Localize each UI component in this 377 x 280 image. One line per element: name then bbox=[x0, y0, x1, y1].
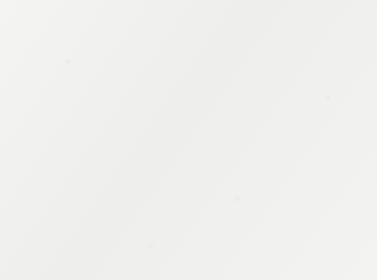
x-axis-category-label: Netherlands bbox=[97, 186, 107, 248]
y-tick-mark bbox=[44, 118, 50, 119]
organ-donor-bar-chart: Percentage of Organ Donors 0102030405060… bbox=[0, 0, 377, 280]
y-tick-mark bbox=[44, 55, 50, 56]
bar-rect bbox=[332, 46, 349, 181]
bar-rect bbox=[250, 24, 267, 181]
bar-value-label: 4 bbox=[62, 163, 68, 173]
bar-rect bbox=[57, 175, 74, 181]
y-tick-mark bbox=[44, 87, 50, 88]
bar-rect bbox=[195, 27, 212, 181]
y-tick-label: 100 bbox=[0, 18, 40, 29]
bar: 86 bbox=[332, 46, 349, 181]
bar: 12 bbox=[140, 162, 157, 181]
x-axis-category-label: United Kingdom bbox=[125, 186, 135, 268]
y-tick-mark bbox=[44, 24, 50, 25]
bar-rect bbox=[112, 154, 129, 181]
bar-rect bbox=[305, 24, 322, 181]
bar: 100 bbox=[305, 24, 322, 181]
bar-rect bbox=[85, 137, 102, 181]
y-tick-label: 40 bbox=[0, 112, 40, 123]
bar: 98 bbox=[195, 27, 212, 181]
bar: 100 bbox=[167, 24, 184, 181]
x-axis-category-label: Germany bbox=[152, 186, 162, 232]
bar-value-label: 86 bbox=[334, 34, 347, 44]
bar-value-label: 100 bbox=[276, 12, 295, 22]
bar-value-label: 100 bbox=[166, 12, 185, 22]
bar-rect bbox=[277, 24, 294, 181]
y-tick-mark bbox=[44, 134, 50, 135]
y-tick-mark bbox=[44, 181, 50, 182]
bar-value-label: 12 bbox=[142, 150, 155, 160]
bar-value-label: 100 bbox=[304, 12, 323, 22]
x-axis-category-label: Belgium bbox=[207, 186, 217, 227]
y-tick-label: 90 bbox=[0, 34, 40, 45]
y-tick-mark bbox=[44, 150, 50, 151]
x-axis-category-label: Hungary bbox=[262, 186, 272, 229]
x-axis-category-label: Sweden bbox=[345, 186, 355, 226]
x-axis-category-label: Denmark bbox=[70, 186, 80, 232]
y-tick-label: 60 bbox=[0, 81, 40, 92]
x-axis-category-label: Poland bbox=[290, 186, 300, 221]
bar: 100 bbox=[277, 24, 294, 181]
y-tick-label: 10 bbox=[0, 159, 40, 170]
y-tick-label: 80 bbox=[0, 49, 40, 60]
bar-value-label: 100 bbox=[221, 12, 240, 22]
bar-rect bbox=[140, 162, 157, 181]
y-tick-label: 0 bbox=[0, 175, 40, 186]
bar: 100 bbox=[222, 24, 239, 181]
y-tick-mark bbox=[44, 165, 50, 166]
y-tick-label: 70 bbox=[0, 65, 40, 76]
bar-value-label: 100 bbox=[249, 12, 268, 22]
bar: 100 bbox=[250, 24, 267, 181]
y-tick-mark bbox=[44, 71, 50, 72]
y-tick-label: 50 bbox=[0, 97, 40, 108]
bar: 17 bbox=[112, 154, 129, 181]
bar: 28 bbox=[85, 137, 102, 181]
x-axis-category-label: Austria bbox=[180, 186, 190, 223]
bar-value-label: 17 bbox=[114, 142, 127, 152]
bar: 4 bbox=[57, 175, 74, 181]
y-tick-mark bbox=[44, 103, 50, 104]
bar-value-label: 28 bbox=[87, 125, 100, 135]
y-tick-label: 30 bbox=[0, 128, 40, 139]
x-axis-category-label: Portugal bbox=[317, 186, 327, 230]
bar-value-label: 98 bbox=[197, 15, 210, 25]
y-tick-label: 20 bbox=[0, 144, 40, 155]
bar-rect bbox=[222, 24, 239, 181]
y-tick-mark bbox=[44, 40, 50, 41]
x-axis-category-label: France bbox=[235, 186, 245, 220]
bar-rect bbox=[167, 24, 184, 181]
